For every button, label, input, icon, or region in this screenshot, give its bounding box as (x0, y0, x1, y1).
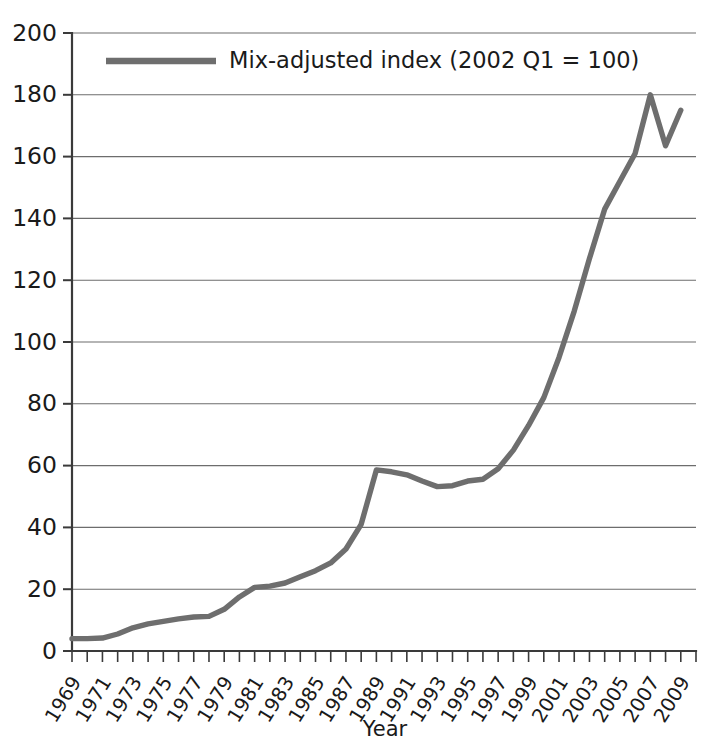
x-axis-ticks (72, 651, 696, 662)
y-tick-label-200: 200 (12, 19, 57, 47)
chart-container: 020406080100120140160180200 196919711973… (0, 0, 714, 745)
y-axis-tick-labels: 020406080100120140160180200 (12, 19, 57, 665)
chart-legend: Mix-adjusted index (2002 Q1 = 100) (106, 47, 639, 73)
y-tick-label-80: 80 (27, 389, 57, 417)
series-line-0 (72, 95, 681, 639)
y-axis-ticks (63, 33, 72, 651)
data-series (72, 95, 681, 639)
legend-label-mix-adjusted-index: Mix-adjusted index (2002 Q1 = 100) (229, 47, 639, 73)
y-tick-label-160: 160 (12, 142, 57, 170)
y-tick-label-120: 120 (12, 266, 57, 294)
x-axis-title: Year (362, 717, 408, 741)
y-tick-label-20: 20 (27, 575, 57, 603)
y-tick-label-40: 40 (27, 513, 57, 541)
y-tick-label-180: 180 (12, 80, 57, 108)
line-chart: 020406080100120140160180200 196919711973… (0, 0, 714, 745)
gridlines (72, 33, 696, 589)
y-tick-label-100: 100 (12, 328, 57, 356)
y-tick-label-0: 0 (42, 637, 57, 665)
y-tick-label-140: 140 (12, 204, 57, 232)
y-tick-label-60: 60 (27, 451, 57, 479)
